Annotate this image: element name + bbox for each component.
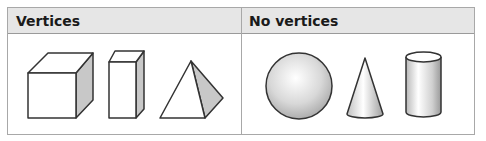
pyramid-shape [160, 61, 223, 118]
shapes-canvas [0, 0, 486, 141]
rectangular-prism-shape [109, 51, 144, 118]
sphere-shape [266, 53, 332, 119]
cylinder-shape [406, 52, 441, 117]
cone-shape [347, 58, 383, 118]
cube-shape [28, 53, 93, 118]
